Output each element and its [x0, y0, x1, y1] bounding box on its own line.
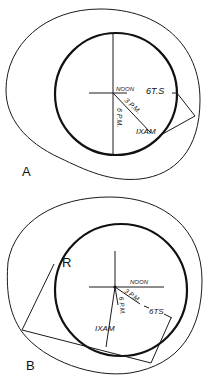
hour-line-6pm-b [115, 287, 118, 305]
inner-circle-b [55, 224, 187, 356]
label-ixam-a: IXAM [136, 127, 156, 136]
tangent-line-1-a [177, 93, 195, 116]
panel-b: R NOON 3 P.M. 6 P.M. 6TS IXAM B [7, 197, 202, 374]
panel-label-a: A [22, 164, 31, 179]
hour-line-gts-ext-b [164, 314, 172, 318]
diagram: NOON 6T.S 3 P.M. 6 P.M. IXAM A R NOON 3 … [0, 0, 210, 391]
tangent-line-2-a [159, 116, 195, 136]
label-noon-a: NOON [116, 86, 135, 92]
label-gts-a: 6T.S [146, 86, 164, 96]
label-gts-b: 6TS [149, 307, 164, 316]
label-ixam-b: IXAM [95, 324, 115, 333]
label-r-b: R [62, 255, 71, 270]
label-6pm-b: 6 P.M. [118, 296, 127, 315]
tangent-line-right-b [151, 318, 171, 363]
label-3pm-a: 3 P.M. [123, 97, 142, 115]
panel-a: NOON 6T.S 3 P.M. 6 P.M. IXAM A [6, 9, 200, 179]
label-6pm-a: 6 P.M. [116, 108, 123, 127]
outer-boundary-b [7, 197, 202, 374]
tangent-line-r-b [22, 264, 54, 330]
hour-line-ixam-b [106, 287, 115, 347]
bottom-line-b [22, 330, 151, 363]
panel-label-b: B [26, 358, 35, 373]
label-noon-b: NOON [130, 279, 149, 285]
